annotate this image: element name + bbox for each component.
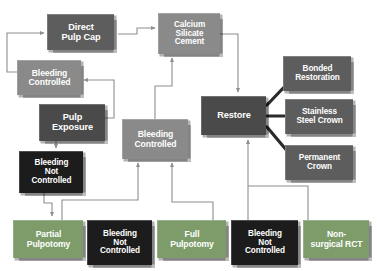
node-calcium-silicate-cement[interactable]: Calcium Silicate Cement [158,13,220,54]
node-bleeding-not-controlled-2[interactable]: Bleeding Not Controlled [87,220,152,265]
node-stainless-steel-crown[interactable]: Stainless Steel Crown [285,99,353,134]
wire-calcium-silicate-cement-to-restore [220,34,238,92]
node-permanent-crown[interactable]: Permanent Crown [285,145,353,180]
node-label: Restore [215,111,253,121]
node-bonded-restoration[interactable]: Bonded Restoration [283,56,351,91]
node-label: Bleeding Controlled [27,69,73,88]
node-full-pulpotomy[interactable]: Full Pulpotomy [157,220,226,258]
node-label: Non- surgical RCT [309,230,365,249]
node-label: Bleeding Not Controlled [243,230,287,257]
wire-full-pulpotomy-to-bleeding-controlled-2 [172,163,213,220]
node-label: Full Pulpotomy [168,230,216,249]
node-bleeding-controlled-2[interactable]: Bleeding Controlled [122,119,188,159]
node-label: Partial Pulpotomy [25,230,73,249]
node-label: Calcium Silicate Cement [172,21,207,48]
node-bleeding-not-controlled-1[interactable]: Bleeding Not Controlled [19,151,83,193]
node-partial-pulpotomy[interactable]: Partial Pulpotomy [13,220,83,258]
node-label: Bonded Restoration [293,65,341,83]
flowchart-canvas: Direct Pulp Cap Calcium Silicate Cement … [0,0,377,271]
node-pulp-exposure[interactable]: Pulp Exposure [39,104,105,141]
node-non-surgical-rct[interactable]: Non- surgical RCT [303,220,369,258]
node-label: Bleeding Not Controlled [98,230,142,257]
node-direct-pulp-cap[interactable]: Direct Pulp Cap [47,14,114,50]
node-label: Pulp Exposure [50,113,95,133]
wire-bleeding-not-controlled-1-to-partial-pulpotomy [44,193,52,216]
wire-non-surgical-rct-to-restore [248,186,308,220]
node-bleeding-controlled-1[interactable]: Bleeding Controlled [17,60,81,95]
node-label: Permanent Crown [297,154,342,172]
wire-bleeding-controlled-2-to-calcium-silicate-cement [155,58,172,119]
node-label: Direct Pulp Cap [59,23,102,43]
node-label: Stainless Steel Crown [294,108,344,126]
node-label: Bleeding Controlled [133,130,179,149]
node-label: Bleeding Not Controlled [30,159,74,186]
node-restore[interactable]: Restore [201,96,266,135]
node-bleeding-not-controlled-3[interactable]: Bleeding Not Controlled [231,220,298,265]
wire-direct-pulp-cap-to-calcium-silicate-cement [118,28,155,34]
